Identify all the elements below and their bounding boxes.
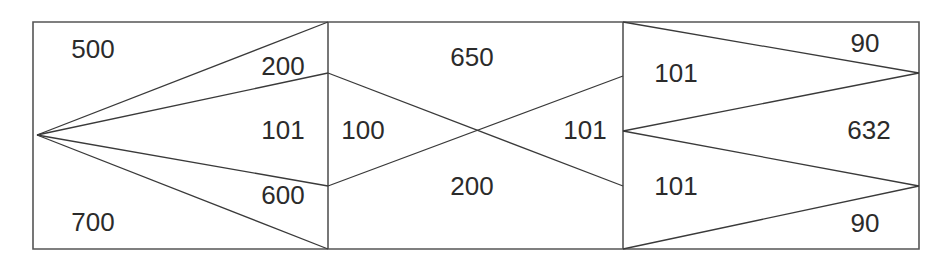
label-700: 700 xyxy=(71,207,114,237)
label-650: 650 xyxy=(450,42,493,72)
label-90-top: 90 xyxy=(851,28,880,58)
flow-diagram-svg: 500 200 101 600 700 650 100 200 101 90 1… xyxy=(0,0,946,262)
diagram-root: 500 200 101 600 700 650 100 200 101 90 1… xyxy=(0,0,946,262)
label-632: 632 xyxy=(847,115,890,145)
label-200-left: 200 xyxy=(261,51,304,81)
label-90-bottom: 90 xyxy=(851,208,880,238)
label-600: 600 xyxy=(261,180,304,210)
label-101-middle: 101 xyxy=(563,115,606,145)
label-100: 100 xyxy=(341,115,384,145)
label-200-middle: 200 xyxy=(450,171,493,201)
label-101-right-bottom: 101 xyxy=(654,171,697,201)
label-500: 500 xyxy=(71,34,114,64)
label-101-right-top: 101 xyxy=(654,58,697,88)
label-101-left: 101 xyxy=(261,115,304,145)
